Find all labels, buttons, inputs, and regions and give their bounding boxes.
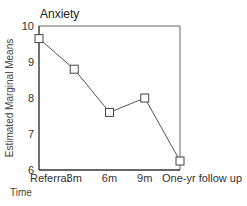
y-tick-label: 8 <box>28 92 34 104</box>
x-tick-label: 9m <box>137 172 152 184</box>
square-marker-icon <box>141 94 149 102</box>
square-marker-icon <box>106 108 114 116</box>
square-marker-icon <box>35 35 43 43</box>
square-marker-icon <box>176 157 184 165</box>
x-axis-label: Time <box>10 187 32 198</box>
y-tick-label: 10 <box>22 20 34 32</box>
y-axis-label: Estimated Marginal Means <box>4 39 15 157</box>
y-ticks: 678910 <box>22 20 34 176</box>
x-tick-label: One-yr follow up <box>162 172 242 184</box>
x-tick-label: Referral <box>30 172 69 184</box>
x-ticks: Referral3m6m9mOne-yr follow up <box>30 172 242 184</box>
plot-frame <box>39 26 180 170</box>
x-tick-label: 6m <box>102 172 117 184</box>
x-tick-label: 3m <box>67 172 82 184</box>
chart-title: Anxiety <box>40 7 79 21</box>
square-marker-icon <box>70 65 78 73</box>
chart: Anxiety 678910 Referral3m6m9mOne-yr foll… <box>0 0 247 206</box>
y-tick-label: 7 <box>28 128 34 140</box>
y-tick-label: 9 <box>28 56 34 68</box>
series-line <box>35 35 184 165</box>
